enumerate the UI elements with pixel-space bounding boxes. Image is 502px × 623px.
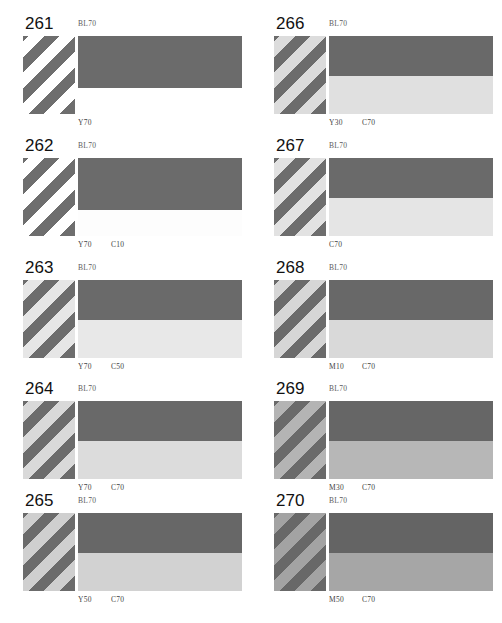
panel-number: 269 xyxy=(276,380,304,397)
diagonal-stripe-swatch xyxy=(274,513,326,591)
ink-label-bottom-group: Y30C70 xyxy=(329,118,375,127)
color-block xyxy=(78,280,242,358)
color-band-top xyxy=(329,280,493,320)
color-block xyxy=(329,280,493,358)
color-band-top xyxy=(78,401,242,441)
ink-label-bottom-group: C70 xyxy=(329,240,355,249)
color-band-bottom xyxy=(329,320,493,358)
ink-label-bottom: M30 xyxy=(329,483,355,492)
color-block xyxy=(78,513,242,591)
color-block xyxy=(329,513,493,591)
color-band-top xyxy=(78,280,242,320)
panel-number: 270 xyxy=(276,492,304,509)
color-band-bottom xyxy=(78,441,242,479)
color-band-bottom xyxy=(78,320,242,358)
ink-label-bottom: Y70 xyxy=(78,362,104,371)
ink-label-bottom-group: Y70C70 xyxy=(78,483,124,492)
ink-label-bottom-group: M50C70 xyxy=(329,595,375,604)
color-band-bottom xyxy=(329,198,493,236)
diagonal-stripe-swatch xyxy=(23,36,75,114)
diagonal-stripe-swatch xyxy=(274,280,326,358)
ink-label-bottom: Y70 xyxy=(78,240,104,249)
ink-label-bottom: C10 xyxy=(111,240,124,249)
color-band-top xyxy=(329,36,493,76)
ink-label-bottom: C70 xyxy=(362,483,375,492)
color-block xyxy=(78,401,242,479)
panel-number: 263 xyxy=(25,259,53,276)
column-left: 261BL70Y70262BL70Y70C10263BL70Y70C50264B… xyxy=(0,0,251,623)
color-band-top xyxy=(329,158,493,198)
chart-sheet: 261BL70Y70262BL70Y70C10263BL70Y70C50264B… xyxy=(0,0,502,623)
ink-label-top: BL70 xyxy=(329,263,347,272)
panel-number: 261 xyxy=(25,15,53,32)
ink-label-bottom: Y70 xyxy=(78,118,104,127)
color-block xyxy=(78,158,242,236)
ink-label-top: BL70 xyxy=(329,496,347,505)
panel-number: 264 xyxy=(25,380,53,397)
ink-label-top: BL70 xyxy=(78,263,96,272)
ink-label-top: BL70 xyxy=(329,141,347,150)
diagonal-stripe-swatch xyxy=(274,401,326,479)
ink-label-bottom: M10 xyxy=(329,362,355,371)
panel-number: 262 xyxy=(25,137,53,154)
ink-label-bottom-group: M30C70 xyxy=(329,483,375,492)
ink-label-top: BL70 xyxy=(78,496,96,505)
column-right: 266BL70Y30C70267BL70C70268BL70M10C70269B… xyxy=(251,0,502,623)
ink-label-bottom: C70 xyxy=(111,483,124,492)
ink-label-bottom-group: Y70C50 xyxy=(78,362,124,371)
ink-label-top: BL70 xyxy=(329,19,347,28)
color-band-bottom xyxy=(329,553,493,591)
panel-number: 266 xyxy=(276,15,304,32)
color-block xyxy=(329,158,493,236)
diagonal-stripe-swatch xyxy=(23,280,75,358)
panel-number: 268 xyxy=(276,259,304,276)
ink-label-bottom: C70 xyxy=(362,362,375,371)
color-band-bottom xyxy=(78,88,242,114)
color-band-top xyxy=(78,513,242,553)
ink-label-bottom: M50 xyxy=(329,595,355,604)
diagonal-stripe-swatch xyxy=(23,401,75,479)
diagonal-stripe-swatch xyxy=(274,158,326,236)
ink-label-bottom-group: Y70 xyxy=(78,118,104,127)
color-band-bottom xyxy=(329,76,493,114)
color-band-top xyxy=(329,513,493,553)
color-block xyxy=(78,36,242,114)
ink-label-top: BL70 xyxy=(329,384,347,393)
ink-label-bottom: C50 xyxy=(111,362,124,371)
ink-label-bottom: Y50 xyxy=(78,595,104,604)
ink-label-bottom-group: Y50C70 xyxy=(78,595,124,604)
ink-label-bottom: C70 xyxy=(329,240,355,249)
diagonal-stripe-swatch xyxy=(23,158,75,236)
ink-label-bottom: C70 xyxy=(111,595,124,604)
ink-label-bottom: Y70 xyxy=(78,483,104,492)
diagonal-stripe-swatch xyxy=(23,513,75,591)
color-band-bottom xyxy=(329,441,493,479)
color-band-top xyxy=(78,36,242,88)
color-band-bottom xyxy=(78,553,242,591)
ink-label-bottom-group: Y70C10 xyxy=(78,240,124,249)
ink-label-bottom: C70 xyxy=(362,118,375,127)
panel-number: 265 xyxy=(25,492,53,509)
ink-label-top: BL70 xyxy=(78,384,96,393)
color-band-top xyxy=(78,158,242,210)
color-block xyxy=(329,401,493,479)
ink-label-top: BL70 xyxy=(78,141,96,150)
ink-label-bottom-group: M10C70 xyxy=(329,362,375,371)
panel-number: 267 xyxy=(276,137,304,154)
color-band-top xyxy=(329,401,493,441)
ink-label-bottom: C70 xyxy=(362,595,375,604)
ink-label-top: BL70 xyxy=(78,19,96,28)
color-band-bottom xyxy=(78,210,242,236)
ink-label-bottom: Y30 xyxy=(329,118,355,127)
diagonal-stripe-swatch xyxy=(274,36,326,114)
color-block xyxy=(329,36,493,114)
